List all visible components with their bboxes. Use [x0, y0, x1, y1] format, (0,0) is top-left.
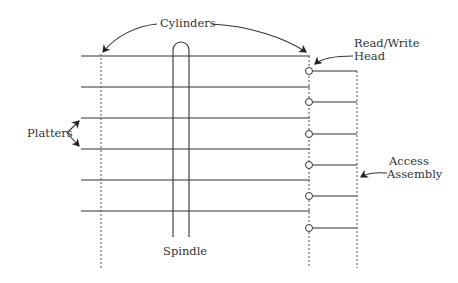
head-arrow: [315, 56, 353, 64]
label-head: Head: [354, 49, 386, 63]
head-icon: [306, 193, 313, 200]
label-assembly: Assembly: [386, 167, 443, 181]
label-access: Access: [388, 154, 429, 168]
cylinders-arrow-left: [103, 24, 157, 52]
disk-diagram: Cylinders Read/Write Head Platters Acces…: [0, 0, 458, 283]
head-icon: [306, 162, 313, 169]
label-spindle: Spindle: [163, 244, 207, 258]
label-platters: Platters: [27, 126, 73, 140]
label-read-write: Read/Write: [354, 36, 420, 50]
cylinders-arrow-right: [212, 24, 306, 52]
access-arrow: [361, 173, 387, 177]
spindle: [173, 42, 189, 237]
head-arms: [313, 71, 357, 228]
head-icon: [306, 99, 313, 106]
head-icon: [306, 131, 313, 138]
head-icon: [306, 225, 313, 232]
label-cylinders: Cylinders: [160, 16, 216, 30]
platters: [81, 56, 310, 211]
head-icon: [306, 68, 313, 75]
